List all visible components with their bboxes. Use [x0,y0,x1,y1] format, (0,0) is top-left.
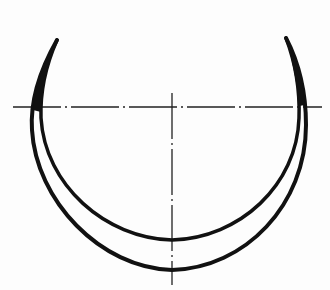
inner-arc [41,38,299,240]
technical-drawing [0,0,330,290]
right-tip [286,38,305,106]
drawing-canvas [0,0,330,290]
outer-arc [32,38,306,270]
